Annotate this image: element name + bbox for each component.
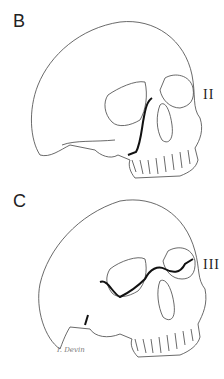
skull-illustration-c xyxy=(0,189,224,379)
orbit-right xyxy=(160,75,193,108)
skull-illustration-b xyxy=(0,0,224,190)
teeth xyxy=(135,329,193,353)
fracture-line-c xyxy=(100,259,193,297)
zygomatic xyxy=(62,140,115,145)
fracture-line-b xyxy=(128,98,152,155)
cranium-outline xyxy=(39,200,206,357)
panel-b: B II xyxy=(0,0,224,190)
orbit-left xyxy=(105,82,146,126)
nasal-aperture xyxy=(157,104,172,142)
teeth xyxy=(132,150,190,174)
orbit-right xyxy=(163,248,195,279)
fracture-label-c: III xyxy=(203,257,220,273)
fracture-label-b: II xyxy=(203,87,214,103)
cranium-outline xyxy=(31,22,201,178)
artist-signature: I. Devin xyxy=(57,346,85,354)
fracture-line-c-lateral xyxy=(85,315,88,325)
nasal-aperture xyxy=(158,280,175,319)
panel-c: C III I. Devin xyxy=(0,189,224,379)
